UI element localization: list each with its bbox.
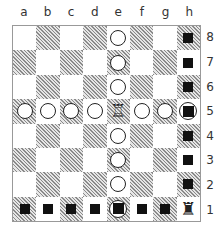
square-e3[interactable] xyxy=(107,148,130,172)
ringed-square-marker-icon xyxy=(179,102,197,120)
square-c3[interactable] xyxy=(60,148,83,172)
circle-marker-icon xyxy=(110,176,126,192)
white-rook-icon: ♖ xyxy=(110,102,126,120)
file-labels: abcdefgh xyxy=(12,4,201,20)
black-square-marker-icon xyxy=(183,82,193,92)
square-e2[interactable] xyxy=(107,172,130,196)
circle-marker-icon xyxy=(110,55,126,71)
square-a3[interactable] xyxy=(13,148,36,172)
rank-label: 4 xyxy=(203,124,217,149)
square-f4[interactable] xyxy=(130,124,153,148)
square-h4[interactable] xyxy=(177,124,200,148)
circle-marker-icon xyxy=(110,152,126,168)
square-b6[interactable] xyxy=(36,75,59,99)
square-e6[interactable] xyxy=(107,75,130,99)
square-c1[interactable] xyxy=(60,197,83,221)
square-e1[interactable] xyxy=(107,197,130,221)
square-h5[interactable] xyxy=(177,99,200,123)
black-square-marker-icon xyxy=(183,155,193,165)
circle-marker-icon xyxy=(110,30,126,46)
circle-marker-icon xyxy=(40,103,56,119)
rank-label: 1 xyxy=(203,197,217,222)
square-g2[interactable] xyxy=(153,172,176,196)
black-square-marker-icon xyxy=(66,204,76,214)
square-f2[interactable] xyxy=(130,172,153,196)
square-e5[interactable]: ♖ xyxy=(107,99,130,123)
square-a6[interactable] xyxy=(13,75,36,99)
square-b1[interactable] xyxy=(36,197,59,221)
square-c6[interactable] xyxy=(60,75,83,99)
ringed-square-marker-icon xyxy=(109,200,127,218)
square-d8[interactable] xyxy=(83,26,106,50)
circle-marker-icon xyxy=(134,103,150,119)
square-g6[interactable] xyxy=(153,75,176,99)
file-label: g xyxy=(154,4,178,20)
square-g7[interactable] xyxy=(153,50,176,74)
square-h7[interactable] xyxy=(177,50,200,74)
square-f8[interactable] xyxy=(130,26,153,50)
file-label: b xyxy=(36,4,60,20)
square-c4[interactable] xyxy=(60,124,83,148)
square-d2[interactable] xyxy=(83,172,106,196)
square-d5[interactable] xyxy=(83,99,106,123)
file-label: d xyxy=(83,4,107,20)
square-h2[interactable] xyxy=(177,172,200,196)
square-d4[interactable] xyxy=(83,124,106,148)
black-square-marker-icon xyxy=(160,204,170,214)
square-a7[interactable] xyxy=(13,50,36,74)
black-square-marker-icon xyxy=(183,33,193,43)
square-a2[interactable] xyxy=(13,172,36,196)
square-d1[interactable] xyxy=(83,197,106,221)
square-e4[interactable] xyxy=(107,124,130,148)
square-g5[interactable] xyxy=(153,99,176,123)
square-f5[interactable] xyxy=(130,99,153,123)
file-label: a xyxy=(12,4,36,20)
square-b8[interactable] xyxy=(36,26,59,50)
square-d3[interactable] xyxy=(83,148,106,172)
circle-marker-icon xyxy=(87,103,103,119)
square-a8[interactable] xyxy=(13,26,36,50)
square-a1[interactable] xyxy=(13,197,36,221)
square-a5[interactable] xyxy=(13,99,36,123)
square-f3[interactable] xyxy=(130,148,153,172)
rank-label: 6 xyxy=(203,74,217,99)
square-d7[interactable] xyxy=(83,50,106,74)
square-g1[interactable] xyxy=(153,197,176,221)
square-h6[interactable] xyxy=(177,75,200,99)
black-square-marker-icon xyxy=(183,58,193,68)
rank-label: 8 xyxy=(203,25,217,50)
square-a4[interactable] xyxy=(13,124,36,148)
square-e8[interactable] xyxy=(107,26,130,50)
square-h8[interactable] xyxy=(177,26,200,50)
square-f6[interactable] xyxy=(130,75,153,99)
square-g4[interactable] xyxy=(153,124,176,148)
square-b5[interactable] xyxy=(36,99,59,123)
circle-marker-icon xyxy=(17,103,33,119)
black-square-marker-icon xyxy=(90,204,100,214)
square-e7[interactable] xyxy=(107,50,130,74)
square-f1[interactable] xyxy=(130,197,153,221)
square-c8[interactable] xyxy=(60,26,83,50)
rank-label: 3 xyxy=(203,148,217,173)
black-square-marker-icon xyxy=(137,204,147,214)
circle-marker-icon xyxy=(110,128,126,144)
square-b7[interactable] xyxy=(36,50,59,74)
square-c5[interactable] xyxy=(60,99,83,123)
square-c7[interactable] xyxy=(60,50,83,74)
chess-board: ♖♜ xyxy=(12,25,201,222)
black-rook-icon: ♜ xyxy=(180,200,196,218)
square-b3[interactable] xyxy=(36,148,59,172)
square-b2[interactable] xyxy=(36,172,59,196)
square-g8[interactable] xyxy=(153,26,176,50)
square-c2[interactable] xyxy=(60,172,83,196)
circle-marker-icon xyxy=(157,103,173,119)
square-g3[interactable] xyxy=(153,148,176,172)
square-h3[interactable] xyxy=(177,148,200,172)
square-f7[interactable] xyxy=(130,50,153,74)
square-b4[interactable] xyxy=(36,124,59,148)
square-h1[interactable]: ♜ xyxy=(177,197,200,221)
circle-marker-icon xyxy=(63,103,79,119)
black-square-marker-icon xyxy=(183,179,193,189)
square-d6[interactable] xyxy=(83,75,106,99)
rank-labels: 87654321 xyxy=(203,25,217,222)
